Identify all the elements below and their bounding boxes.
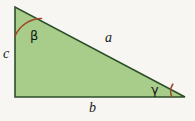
- triangle-diagram-canvas: [0, 0, 195, 121]
- side-label-c: c: [3, 47, 9, 61]
- angle-label-beta: β: [30, 29, 38, 42]
- triangle-shape: [15, 7, 185, 97]
- triangle-figure: a b c β γ: [0, 0, 195, 121]
- side-label-a: a: [105, 31, 112, 45]
- side-label-b: b: [89, 101, 96, 115]
- angle-label-gamma: γ: [151, 83, 159, 96]
